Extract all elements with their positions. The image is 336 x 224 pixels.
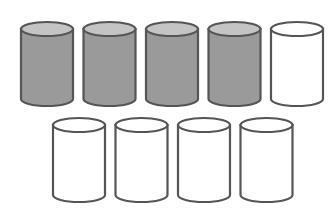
cylinder-diagram bbox=[0, 0, 336, 224]
empty-cylinder bbox=[116, 118, 168, 202]
empty-cylinder bbox=[178, 118, 230, 202]
filled-cylinder bbox=[84, 22, 136, 106]
filled-cylinder bbox=[21, 22, 73, 106]
empty-cylinder bbox=[271, 22, 323, 106]
empty-cylinder bbox=[53, 118, 105, 202]
filled-cylinder bbox=[209, 22, 261, 106]
empty-cylinder bbox=[241, 118, 293, 202]
filled-cylinder bbox=[146, 22, 198, 106]
